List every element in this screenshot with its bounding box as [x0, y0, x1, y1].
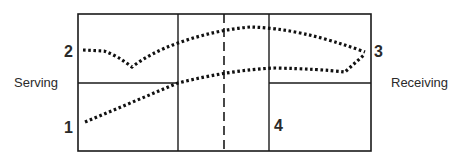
court-diagram: Serving Receiving 1 2 3 4 — [0, 0, 457, 159]
receiving-label: Receiving — [391, 75, 448, 90]
position-4-label: 4 — [274, 117, 283, 134]
serving-label: Serving — [14, 75, 58, 90]
position-1-label: 1 — [64, 119, 73, 136]
position-2-label: 2 — [64, 43, 73, 60]
position-3-label: 3 — [374, 43, 383, 60]
